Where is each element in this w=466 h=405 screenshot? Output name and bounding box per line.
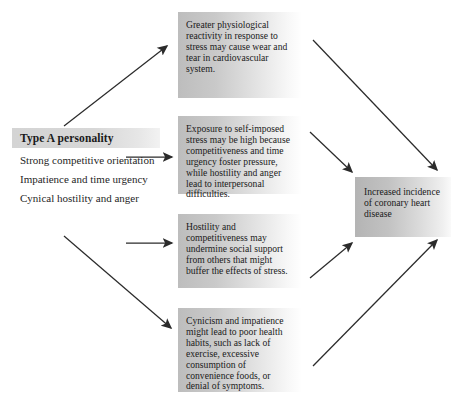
- outcome-text-coronary-heart-disease: Increased incidence of coronary heart di…: [364, 186, 445, 219]
- arrow-physiological-reactivity-to-outcome: [313, 40, 437, 170]
- mechanism-text-health-habits: Cynicism and impatience might lead to po…: [186, 316, 295, 392]
- mechanism-text-self-imposed-stress: Exposure to self-imposed stress may be h…: [186, 124, 295, 200]
- outcome-box-coronary-heart-disease: Increased incidence of coronary heart di…: [355, 177, 451, 237]
- arrow-social-support-to-outcome: [310, 243, 352, 278]
- mechanism-box-social-support: Hostility and competitiveness may underm…: [178, 214, 302, 288]
- trait-cynical-hostility-anger: Cynical hostility and anger: [12, 193, 160, 205]
- mechanism-text-physiological-reactivity: Greater physiological reactivity in resp…: [186, 20, 295, 75]
- arrow-self-imposed-stress-to-outcome: [310, 132, 352, 172]
- trait-competitive-orientation: Strong competitive orientation: [12, 155, 160, 167]
- arrow-source-to-health-habits: [64, 236, 171, 328]
- mechanism-box-health-habits: Cynicism and impatience might lead to po…: [178, 308, 302, 392]
- mechanism-text-social-support: Hostility and competitiveness may underm…: [186, 222, 295, 277]
- diagram-canvas: Type A personality Strong competitive or…: [0, 0, 466, 405]
- mechanism-box-self-imposed-stress: Exposure to self-imposed stress may be h…: [178, 116, 302, 194]
- arrow-health-habits-to-outcome: [313, 240, 437, 366]
- arrow-source-to-physiological-reactivity: [64, 46, 167, 126]
- type-a-personality-header: Type A personality: [12, 128, 160, 148]
- type-a-personality-box: Type A personality Strong competitive or…: [12, 128, 160, 232]
- mechanism-box-physiological-reactivity: Greater physiological reactivity in resp…: [178, 12, 302, 98]
- trait-impatience-time-urgency: Impatience and time urgency: [12, 174, 160, 186]
